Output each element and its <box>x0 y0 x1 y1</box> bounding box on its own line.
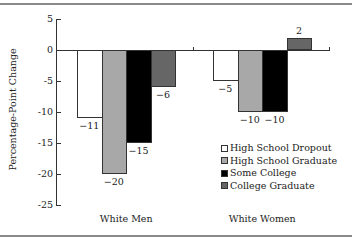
legend-item: High School Graduate <box>221 155 337 166</box>
legend-label: College Graduate <box>230 180 315 191</box>
legend-item: College Graduate <box>221 180 315 191</box>
legend-item: Some College <box>221 167 296 178</box>
category-label: White Men <box>76 213 176 224</box>
y-tick-label: -20 <box>33 169 53 179</box>
legend-item: High School Dropout <box>221 142 332 153</box>
legend-swatch <box>221 170 228 177</box>
x-axis-end-tick <box>329 47 330 51</box>
legend-label: High School Dropout <box>230 142 332 153</box>
category-label: White Women <box>212 213 312 224</box>
y-tick-label: -10 <box>33 107 53 117</box>
legend-swatch <box>221 157 228 164</box>
bar-value-label: −6 <box>148 90 178 100</box>
bar-value-label: −20 <box>99 177 129 187</box>
y-tick <box>56 19 61 20</box>
bar-high-school-dropout <box>213 50 239 81</box>
bar-college-graduate <box>151 50 177 87</box>
top-rule <box>0 3 352 5</box>
bar-high-school-graduate <box>238 50 264 112</box>
bar-value-label: −15 <box>124 146 154 156</box>
y-axis-label: Percentage-Point Change <box>7 61 18 171</box>
y-tick-label: 0 <box>33 45 53 55</box>
legend-label: Some College <box>230 167 296 178</box>
y-tick-label: 5 <box>33 14 53 24</box>
bar-college-graduate <box>287 38 313 50</box>
y-tick <box>56 81 61 82</box>
y-tick <box>56 205 61 206</box>
bar-value-label: −10 <box>260 115 290 125</box>
legend-swatch <box>221 182 228 189</box>
legend-swatch <box>221 145 228 152</box>
y-tick <box>56 112 61 113</box>
y-tick-label: -25 <box>33 200 53 210</box>
bottom-rule <box>0 235 352 237</box>
y-tick <box>56 174 61 175</box>
y-tick <box>56 143 61 144</box>
bar-value-label: −5 <box>210 84 240 94</box>
bar-some-college <box>262 50 288 112</box>
bar-value-label: 2 <box>284 26 314 36</box>
bar-value-label: −11 <box>74 121 104 131</box>
bar-high-school-dropout <box>77 50 103 118</box>
y-tick-label: -5 <box>33 76 53 86</box>
legend-label: High School Graduate <box>230 155 337 166</box>
x-group-divider-tick <box>193 47 194 51</box>
y-tick-label: -15 <box>33 138 53 148</box>
